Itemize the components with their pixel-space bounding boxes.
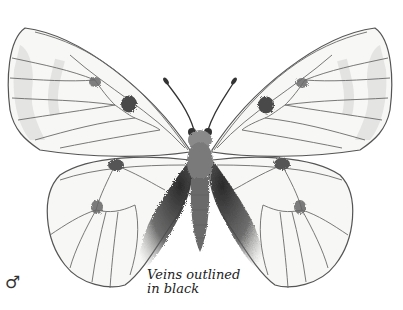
forewing-spot bbox=[121, 96, 137, 113]
hindwing-spot bbox=[274, 158, 290, 170]
butterfly-drawing bbox=[0, 0, 403, 310]
hindwing-spot bbox=[294, 200, 306, 214]
antennae bbox=[166, 82, 234, 130]
butterfly-illustration: ♂ Veins outlined in black bbox=[0, 0, 403, 310]
male-symbol: ♂ bbox=[5, 272, 20, 292]
caption: Veins outlined in black bbox=[147, 268, 240, 296]
forewing-cell-spot bbox=[89, 77, 101, 87]
body bbox=[187, 128, 213, 252]
caption-line-2: in black bbox=[147, 282, 240, 296]
caption-line-1: Veins outlined bbox=[147, 268, 240, 282]
right-forewing bbox=[212, 28, 392, 156]
hindwing-spot bbox=[91, 200, 103, 214]
forewing-spot bbox=[258, 97, 274, 114]
left-forewing bbox=[8, 28, 190, 156]
forewing-cell-spot bbox=[296, 78, 308, 88]
hindwing-spot bbox=[108, 159, 124, 171]
